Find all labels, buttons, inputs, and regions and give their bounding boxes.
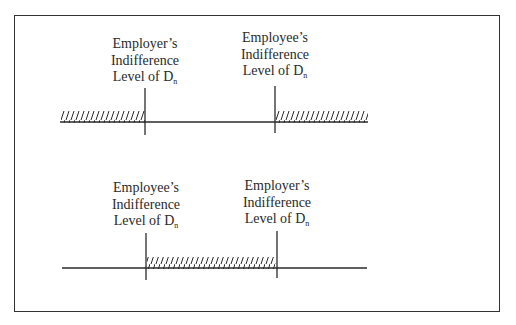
label-line: Indifference (222, 195, 332, 212)
label-line: Employer’s (90, 36, 200, 53)
bottom-employee-indifference-label: Employee’s Indifference Level of Dn (91, 180, 201, 235)
top-right-hatch (276, 111, 368, 123)
label-text: Level of D (114, 213, 175, 228)
label-line: Level of Dn (220, 63, 330, 85)
top-employee-indifference-label: Employee’s Indifference Level of Dn (220, 30, 330, 85)
bottom-panel (62, 231, 367, 280)
label-text: Level of D (245, 211, 306, 226)
bottom-employer-indifference-label: Employer’s Indifference Level of Dn (222, 178, 332, 233)
label-line: Level of Dn (90, 69, 200, 91)
label-text: Level of D (113, 69, 174, 84)
subscript: n (303, 71, 307, 80)
label-line: Employee’s (91, 180, 201, 197)
label-line: Indifference (90, 53, 200, 70)
subscript: n (305, 219, 309, 228)
subscript: n (174, 221, 178, 230)
top-employer-indifference-label: Employer’s Indifference Level of Dn (90, 36, 200, 91)
label-line: Level of Dn (91, 213, 201, 235)
top-left-hatch (61, 111, 145, 123)
label-line: Employer’s (222, 178, 332, 195)
subscript: n (173, 77, 177, 86)
label-text: Level of D (243, 63, 304, 78)
top-panel (60, 86, 368, 135)
bottom-middle-hatch (147, 257, 276, 269)
label-line: Indifference (91, 197, 201, 214)
label-line: Indifference (220, 47, 330, 64)
label-line: Employee’s (220, 30, 330, 47)
label-line: Level of Dn (222, 211, 332, 233)
